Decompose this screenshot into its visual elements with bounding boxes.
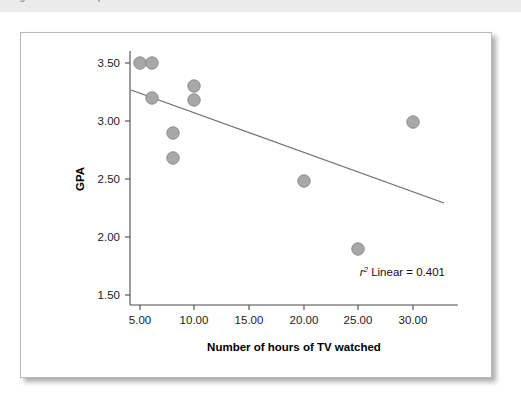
x-axis-ticks: 5.00 10.00 15.00 20.00 25.00 30.00 xyxy=(129,305,428,326)
y-tick-label: 1.50 xyxy=(98,289,120,301)
data-points-group xyxy=(134,57,419,255)
scatter-plot: 3.50 3.00 2.50 2.00 1.50 5.00 10.00 15.0… xyxy=(21,33,491,377)
data-point xyxy=(188,80,200,92)
data-point xyxy=(134,57,146,69)
data-point xyxy=(167,152,179,164)
y-axis-ticks: 3.50 3.00 2.50 2.00 1.50 xyxy=(98,57,130,301)
x-tick-label: 5.00 xyxy=(129,314,151,326)
data-point xyxy=(146,57,158,69)
r-squared-label: Linear = 0.401 xyxy=(368,266,445,278)
y-axis-title: GPA xyxy=(74,167,86,191)
data-point xyxy=(188,94,200,106)
data-point xyxy=(352,243,364,255)
x-tick-label: 20.00 xyxy=(290,314,319,326)
x-tick-label: 10.00 xyxy=(180,314,209,326)
figure-caption-text: Figure 3.2 Scatterplot of hours of TV wa… xyxy=(10,0,280,2)
figure-card: 3.50 3.00 2.50 2.00 1.50 5.00 10.00 15.0… xyxy=(20,32,492,378)
regression-line xyxy=(131,90,444,203)
data-point xyxy=(167,127,179,139)
r-squared-annotation: r2 Linear = 0.401 xyxy=(360,265,445,278)
data-point xyxy=(407,116,419,128)
x-tick-label: 15.00 xyxy=(235,314,264,326)
x-axis-title: Number of hours of TV watched xyxy=(207,341,381,353)
y-tick-label: 2.50 xyxy=(98,173,120,185)
x-tick-label: 25.00 xyxy=(344,314,373,326)
y-tick-label: 3.50 xyxy=(98,57,120,69)
figure-caption-strip: Figure 3.2 Scatterplot of hours of TV wa… xyxy=(0,0,521,12)
data-point xyxy=(298,175,310,187)
y-tick-label: 3.00 xyxy=(98,115,120,127)
data-point xyxy=(146,92,158,104)
y-tick-label: 2.00 xyxy=(98,231,120,243)
x-tick-label: 30.00 xyxy=(399,314,428,326)
